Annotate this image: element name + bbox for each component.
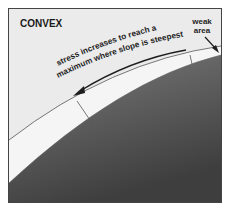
convex-slope-diagram: CONVEX stress increases to reach a maxim… — [0, 0, 247, 211]
weak-area-label-line2: area — [194, 26, 211, 35]
weak-area-label-line1: weak — [191, 17, 212, 26]
diagram-title: CONVEX — [20, 18, 63, 29]
